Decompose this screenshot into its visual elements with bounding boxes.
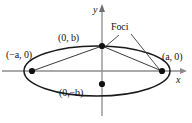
- focal-segment-right: [102, 46, 162, 71]
- focal-segment-left: [32, 46, 102, 71]
- label-x-axis: x: [176, 75, 180, 85]
- label-vertex-right: (a, 0): [162, 52, 183, 62]
- x-axis-arrow-icon: [180, 68, 187, 74]
- y-axis: [99, 4, 105, 116]
- label-covertex-bottom: (0,−b): [59, 88, 83, 98]
- y-axis-arrow-icon: [99, 4, 105, 12]
- foci-leader-lines: [105, 34, 159, 69]
- label-vertex-left: (−a, 0): [6, 50, 32, 60]
- point-covertex-bottom: [99, 81, 105, 87]
- label-foci: Foci: [111, 22, 128, 32]
- point-vertex-right: [159, 68, 165, 74]
- label-covertex-top: (0, b): [58, 33, 79, 43]
- point-vertex-left: [29, 68, 35, 74]
- foci-segments: [32, 46, 162, 71]
- foci-leader-left: [105, 35, 119, 47]
- point-covertex-top: [99, 43, 105, 49]
- label-y-axis: y: [93, 5, 97, 15]
- ellipse-figure: (−a, 0) (a, 0) (0, b) (0,−b) Foci x y: [0, 0, 192, 123]
